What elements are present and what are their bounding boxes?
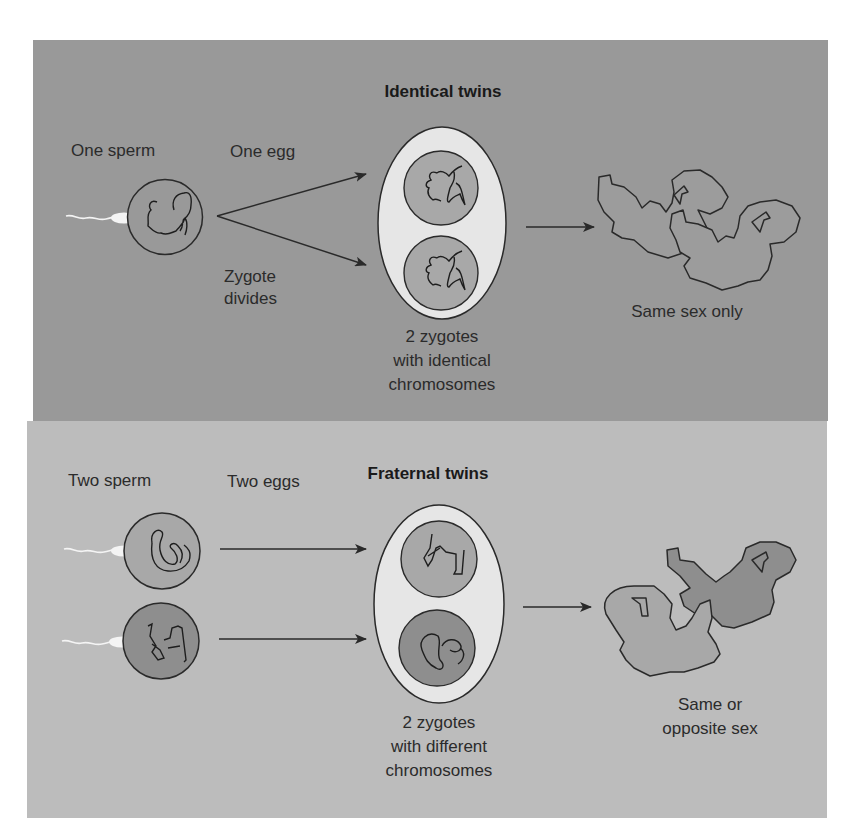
identical-zygotes-line3: chromosomes	[389, 375, 496, 394]
fraternal-outcome-line1: Same or	[678, 695, 743, 714]
fraternal-zygotes-line2: with different	[390, 737, 487, 756]
identical-title: Identical twins	[384, 82, 501, 101]
two-eggs-label: Two eggs	[227, 472, 300, 491]
egg-icon	[124, 513, 200, 589]
fraternal-zygotes-membrane	[374, 505, 504, 703]
two-sperm-label: Two sperm	[68, 471, 151, 490]
zygote-divides-line1: Zygote	[224, 267, 276, 286]
egg-icon	[128, 180, 203, 255]
fraternal-twins-panel: Fraternal twins Two sperm Two eggs	[27, 421, 827, 818]
fraternal-zygotes-line1: 2 zygotes	[403, 713, 476, 732]
one-sperm-label: One sperm	[71, 141, 155, 160]
fraternal-zygotes-line3: chromosomes	[386, 761, 493, 780]
identical-outcome: Same sex only	[631, 302, 743, 321]
zygote-divides-line2: divides	[224, 289, 277, 308]
one-egg-label: One egg	[230, 142, 295, 161]
identical-twins-panel: Identical twins One sperm One egg Zygote…	[33, 40, 828, 421]
identical-zygotes-line2: with identical	[392, 351, 490, 370]
twins-diagram: Identical twins One sperm One egg Zygote…	[0, 0, 856, 832]
fraternal-outcome-line2: opposite sex	[662, 719, 758, 738]
egg-icon	[123, 603, 199, 679]
fraternal-title: Fraternal twins	[368, 464, 489, 483]
identical-zygotes-membrane	[378, 127, 506, 319]
identical-zygotes-line1: 2 zygotes	[406, 327, 479, 346]
